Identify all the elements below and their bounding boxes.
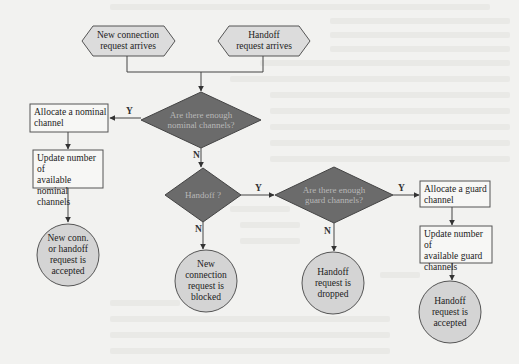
start-node-handoff-label: Handoff request arrives	[224, 30, 304, 52]
terminal-blocked-label: New connection request is blocked	[176, 259, 236, 303]
terminal-dropped-label: Handoff request is dropped	[303, 267, 363, 300]
edge-label-nominal-yes: Y	[126, 106, 133, 116]
terminal-accepted-nominal-label: New conn. or handoff request is accepted	[38, 233, 98, 277]
edge-label-handoff-no: N	[195, 224, 202, 234]
edge-label-handoff-yes: Y	[255, 183, 262, 193]
decision-enough-nominal-label: Are there enough nominal channels?	[156, 110, 246, 130]
terminal-accepted-guard-label: Handoff request is accepted	[420, 296, 480, 329]
process-allocate-guard-label: Allocate a guard channel	[424, 184, 490, 206]
process-update-guard-label: Update number of available guard channel…	[424, 229, 492, 273]
edge-label-guard-yes: Y	[398, 183, 405, 193]
flowchart-canvas: New connection request arrives Handoff r…	[0, 0, 519, 364]
edge-label-nominal-no: N	[193, 150, 200, 160]
start-node-new-connection-label: New connection request arrives	[88, 30, 168, 52]
process-allocate-nominal-label: Allocate a nominal channel	[34, 107, 108, 129]
edge-label-guard-no: N	[324, 226, 331, 236]
decision-handoff-label: Handoff ?	[173, 190, 233, 200]
process-update-nominal-label: Update number of available nominal chann…	[37, 153, 103, 208]
connector-merge	[127, 56, 263, 72]
decision-enough-guard-label: Are there enough guard channels?	[289, 185, 379, 205]
